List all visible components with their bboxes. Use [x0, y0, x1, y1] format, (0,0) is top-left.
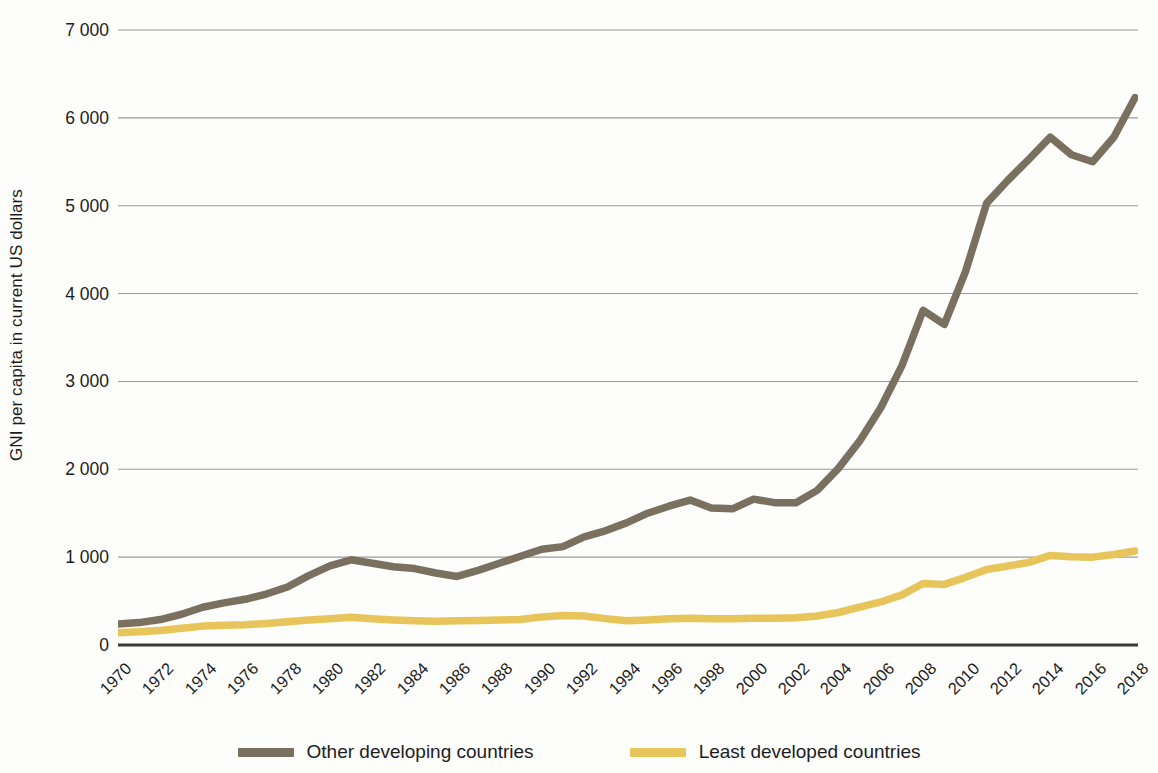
legend-label: Other developing countries: [307, 741, 534, 763]
y-axis-tick-label: 0: [20, 635, 118, 656]
legend-swatch-icon: [630, 748, 686, 757]
chart-figure: GNI per capita in current US dollars 01 …: [0, 0, 1158, 773]
y-axis-tick-label: 4 000: [20, 283, 118, 304]
legend-swatch-icon: [238, 748, 294, 757]
y-axis-tick-labels: 01 0002 0003 0004 0005 0006 0007 000: [20, 0, 118, 773]
y-axis-tick-label: 7 000: [20, 20, 118, 41]
y-axis-tick-label: 6 000: [20, 107, 118, 128]
plot-area: [118, 0, 1138, 773]
y-axis-tick-label: 2 000: [20, 459, 118, 480]
y-axis-tick-label: 1 000: [20, 547, 118, 568]
chart-legend: Other developing countriesLeast develope…: [0, 731, 1158, 773]
legend-item[interactable]: Other developing countries: [238, 741, 534, 763]
y-axis-tick-label: 5 000: [20, 195, 118, 216]
data-line: [118, 98, 1135, 624]
chart-canvas: [118, 0, 1138, 773]
legend-item[interactable]: Least developed countries: [630, 741, 921, 763]
legend-label: Least developed countries: [699, 741, 921, 763]
y-axis-tick-label: 3 000: [20, 371, 118, 392]
